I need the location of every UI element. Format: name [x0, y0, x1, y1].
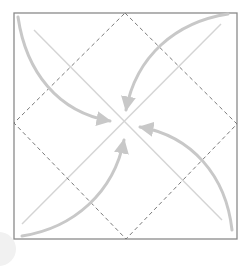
- arrow-bottom-right-icon: [140, 127, 232, 230]
- paper-square: [14, 13, 237, 239]
- arrow-top-left-icon: [18, 17, 110, 121]
- crease-line-anti-diagonal: [22, 24, 221, 224]
- arrow-top-right-icon: [126, 14, 228, 110]
- valley-fold-diamond: [14, 13, 237, 239]
- crease-line-main-diagonal: [34, 30, 222, 220]
- arrow-bottom-left-icon: [22, 140, 124, 236]
